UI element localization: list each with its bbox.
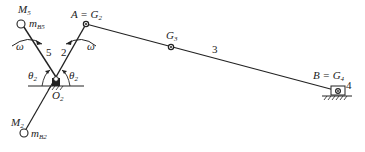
label-m5: M5 <box>18 4 31 17</box>
link-2-extension <box>25 77 56 131</box>
label-link-2: 2 <box>61 47 67 58</box>
label-link-3: 3 <box>212 44 218 55</box>
label-theta-left: θ2 <box>28 70 37 83</box>
label-omega-right: ω <box>87 41 95 52</box>
label-o2: O2 <box>52 90 63 103</box>
mass-m2-circle <box>20 129 28 137</box>
label-mb5: mB5 <box>29 18 45 31</box>
label-m2: M2 <box>11 117 24 130</box>
label-a-g2: A = G2 <box>71 9 102 22</box>
mechanism-drawing <box>0 0 365 152</box>
mass-m5-circle <box>17 20 25 28</box>
label-theta-right: θ2 <box>69 70 78 83</box>
label-link-4: 4 <box>346 80 352 91</box>
ground-hatch-b <box>324 96 347 100</box>
label-omega-left: ω <box>16 41 24 52</box>
label-b-g4: B = G4 <box>313 70 344 83</box>
label-g3: G3 <box>166 30 177 43</box>
label-mb2: mB2 <box>31 128 47 141</box>
link-3 <box>86 24 338 91</box>
label-link-5: 5 <box>46 47 52 58</box>
